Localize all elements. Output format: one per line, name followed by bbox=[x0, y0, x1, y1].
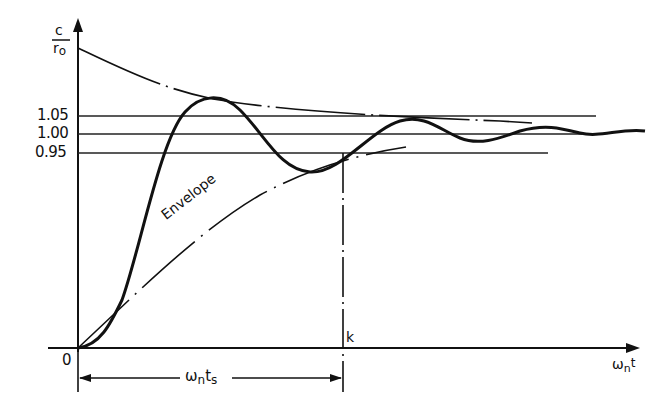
response-curve bbox=[78, 98, 645, 348]
tick-100: 1.00 bbox=[37, 124, 68, 142]
xaxis-label: ωnt bbox=[612, 356, 635, 372]
xaxis-omega: ω bbox=[612, 356, 624, 372]
upper-envelope bbox=[78, 48, 532, 123]
ylabel-sub-o: o bbox=[59, 44, 66, 58]
ts-sub-s: s bbox=[211, 373, 217, 387]
tick-095: 0.95 bbox=[35, 143, 66, 161]
y-axis-arrow-icon bbox=[73, 18, 83, 32]
ts-sub-n: n bbox=[198, 373, 206, 387]
settling-time-label: ωnts bbox=[185, 367, 217, 385]
xaxis-sub-n: n bbox=[624, 362, 631, 375]
tick-105: 1.05 bbox=[37, 106, 68, 124]
ylabel-r: r bbox=[53, 40, 59, 56]
ylabel-numerator: c bbox=[55, 22, 63, 38]
ylabel-denominator: ro bbox=[53, 40, 66, 56]
xaxis-t: t bbox=[631, 356, 636, 370]
ts-omega: ω bbox=[185, 367, 198, 385]
ts-arrow-left-icon bbox=[79, 374, 91, 382]
origin-label: 0 bbox=[62, 351, 72, 369]
settling-k-label: k bbox=[346, 329, 354, 345]
x-axis-arrow-icon bbox=[626, 343, 640, 353]
ts-arrow-right-icon bbox=[330, 374, 342, 382]
step-response-diagram bbox=[0, 0, 667, 409]
lower-envelope bbox=[78, 147, 406, 348]
